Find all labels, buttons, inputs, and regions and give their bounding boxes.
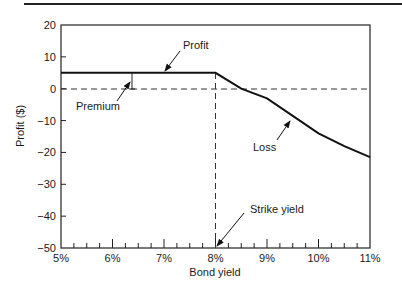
y-tick-label: −30 [37, 178, 56, 190]
y-axis-label: Profit ($) [14, 105, 26, 147]
x-tick-label: 10% [307, 252, 329, 264]
x-axis: 5%6%7%8%9%10%11% [53, 239, 381, 264]
y-tick-label: −10 [37, 115, 56, 127]
x-tick-label: 8% [208, 252, 224, 264]
y-tick-label: −20 [37, 146, 56, 158]
y-axis: 20100−10−20−30−40−50 [37, 19, 66, 254]
y-tick-label: 20 [44, 19, 56, 31]
annotation-profit: Profit [183, 39, 209, 51]
x-tick-label: 6% [105, 252, 121, 264]
y-tick-label: 10 [44, 51, 56, 63]
profit-arrow-icon [165, 51, 180, 71]
chart-canvas: 20100−10−20−30−40−50 5%6%7%8%9%10%11% Pr… [0, 0, 402, 294]
x-axis-label: Bond yield [189, 266, 240, 278]
y-tick-label: 0 [50, 83, 56, 95]
premium-arrow-icon [117, 82, 130, 101]
annotation-premium: Premium [76, 100, 120, 112]
strike-arrow-icon [217, 213, 244, 246]
x-tick-label: 7% [156, 252, 172, 264]
y-tick-label: −40 [37, 210, 56, 222]
annotation-loss: Loss [253, 141, 277, 153]
x-tick-label: 11% [359, 252, 380, 264]
x-tick-label: 5% [53, 252, 69, 264]
loss-arrow-icon [277, 121, 290, 140]
x-tick-label: 9% [259, 252, 275, 264]
annotation-strike-yield: Strike yield [250, 203, 304, 215]
